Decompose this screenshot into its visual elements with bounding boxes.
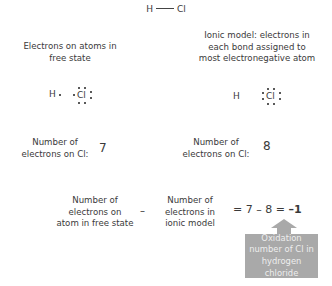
electron-dot [262,92,264,94]
right-heading-line: Ionic model: electrons in [192,30,322,42]
electron-dot [279,98,281,100]
electron-dot [84,102,86,104]
electron-dot [90,97,92,99]
count-label-line: electrons on Cl: [181,149,251,161]
right-heading: Ionic model: electrons in each bond assi… [192,30,322,65]
oxidation-number-callout: Oxidation number of Cl in hydrogen chlor… [245,234,318,278]
electron-dot [273,88,275,90]
electron-dot [59,94,61,96]
left-heading-line: Electrons on atoms in [10,41,130,53]
formula-h: H [146,4,153,14]
minus-operator: – [140,205,145,216]
formula-cl: Cl [177,4,186,14]
electron-dot [90,91,92,93]
term-line: Number of [50,195,140,207]
right-count-label: Number of electrons on Cl: [181,137,251,160]
oxidation-result: –1 [288,203,301,216]
term-line: ionic model [160,218,220,230]
callout-line: hydrogen chloride [245,256,318,279]
h-atom: H [233,91,240,101]
electron-dot [273,103,275,105]
h-atom: H [49,89,56,99]
left-count-label: Number of electrons on Cl: [20,137,90,160]
term-line: Number of [160,195,220,207]
term-line: electrons on [50,207,140,219]
cl-atom: Cl [77,90,86,100]
left-count-value: 7 [99,141,107,155]
electron-dot [267,88,269,90]
right-heading-line: most electronegative atom [192,53,322,65]
equation-expression: = 7 – 8 = –1 [233,203,302,216]
callout-line: number of Cl in [249,244,314,256]
electron-dot [78,102,80,104]
callout-line: Oxidation [261,233,301,245]
electron-dot [262,98,264,100]
count-label-line: Number of [20,137,90,149]
right-heading-line: each bond assigned to [192,42,322,54]
electron-dot [267,103,269,105]
cl-atom: Cl [266,91,275,101]
right-count-value: 8 [263,139,271,153]
single-bond [156,8,174,9]
left-heading-line: free state [10,53,130,65]
electron-dot [78,87,80,89]
term-line: atom in free state [50,218,140,230]
count-label-line: electrons on Cl: [20,149,90,161]
electron-dot [73,94,75,96]
electron-dot [84,87,86,89]
electron-dot [279,92,281,94]
hcl-formula: HCl [0,4,332,14]
expression-text: = 7 – 8 = [233,203,288,216]
equation-term-ionic-model: Number of electrons in ionic model [160,195,220,230]
term-line: electrons in [160,207,220,219]
left-heading: Electrons on atoms in free state [10,41,130,64]
count-label-line: Number of [181,137,251,149]
equation-term-free-state: Number of electrons on atom in free stat… [50,195,140,230]
